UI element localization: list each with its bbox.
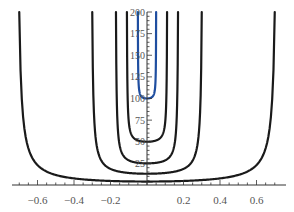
x-tick-label: 0.4	[213, 194, 227, 206]
y-tick-label: 175	[130, 28, 145, 39]
x-tick-label: −0.6	[28, 194, 48, 206]
y-tick-label: 150	[130, 50, 145, 61]
y-tick-label: 75	[135, 115, 145, 126]
y-tick-label: 25	[135, 158, 145, 169]
y-tick-label: 50	[135, 136, 145, 147]
axes-group	[12, 12, 286, 185]
x-tick-label: 0.2	[177, 194, 191, 206]
y-tick-label: 125	[130, 71, 145, 82]
chart-container: −0.6−0.4−0.20.20.40.62550751001251501752…	[0, 0, 294, 212]
x-tick-label: −0.4	[64, 194, 84, 206]
x-tick-label: −0.2	[101, 194, 121, 206]
x-tick-label: 0.6	[250, 194, 264, 206]
y-tick-label: 200	[130, 7, 145, 18]
y-tick-label: 100	[130, 93, 145, 104]
plot-area: −0.6−0.4−0.20.20.40.62550751001251501752…	[0, 0, 294, 212]
